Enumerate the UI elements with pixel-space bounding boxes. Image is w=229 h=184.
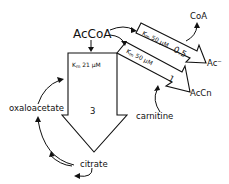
coa-release-curve bbox=[186, 26, 197, 41]
acetate-label: Ac⁻ bbox=[207, 59, 222, 68]
citrate-label: citrate bbox=[80, 160, 108, 169]
acCoA-to-hydrolase-curve bbox=[110, 27, 134, 30]
citrate-synthase-km-label: Km 21 μM bbox=[72, 62, 101, 70]
coa-label: CoA bbox=[190, 12, 207, 21]
arrowhead-icon bbox=[74, 173, 80, 179]
citrate-to-oxaloacetate-curve bbox=[38, 120, 74, 165]
oxaloacetate-label: oxaloacetate bbox=[9, 104, 64, 113]
citrate-synthase-flux-value: 3 bbox=[90, 107, 95, 116]
arrowhead-icon bbox=[88, 47, 94, 52]
arrowhead-icon bbox=[57, 77, 64, 83]
carnitine-label: carnitine bbox=[136, 112, 173, 121]
arrowhead-icon bbox=[35, 116, 41, 122]
carnitine-input-curve bbox=[155, 90, 160, 112]
acCoA-label: AcCoA bbox=[73, 28, 112, 40]
arrowhead-icon bbox=[194, 22, 200, 28]
citrate-loop-curve bbox=[78, 168, 92, 176]
arrowhead-icon bbox=[154, 85, 160, 91]
cycle-lower-curve bbox=[50, 155, 72, 166]
oxaloacetate-to-synthase-curve bbox=[38, 80, 60, 104]
acetylcarnitine-label: AcCn bbox=[190, 89, 212, 98]
